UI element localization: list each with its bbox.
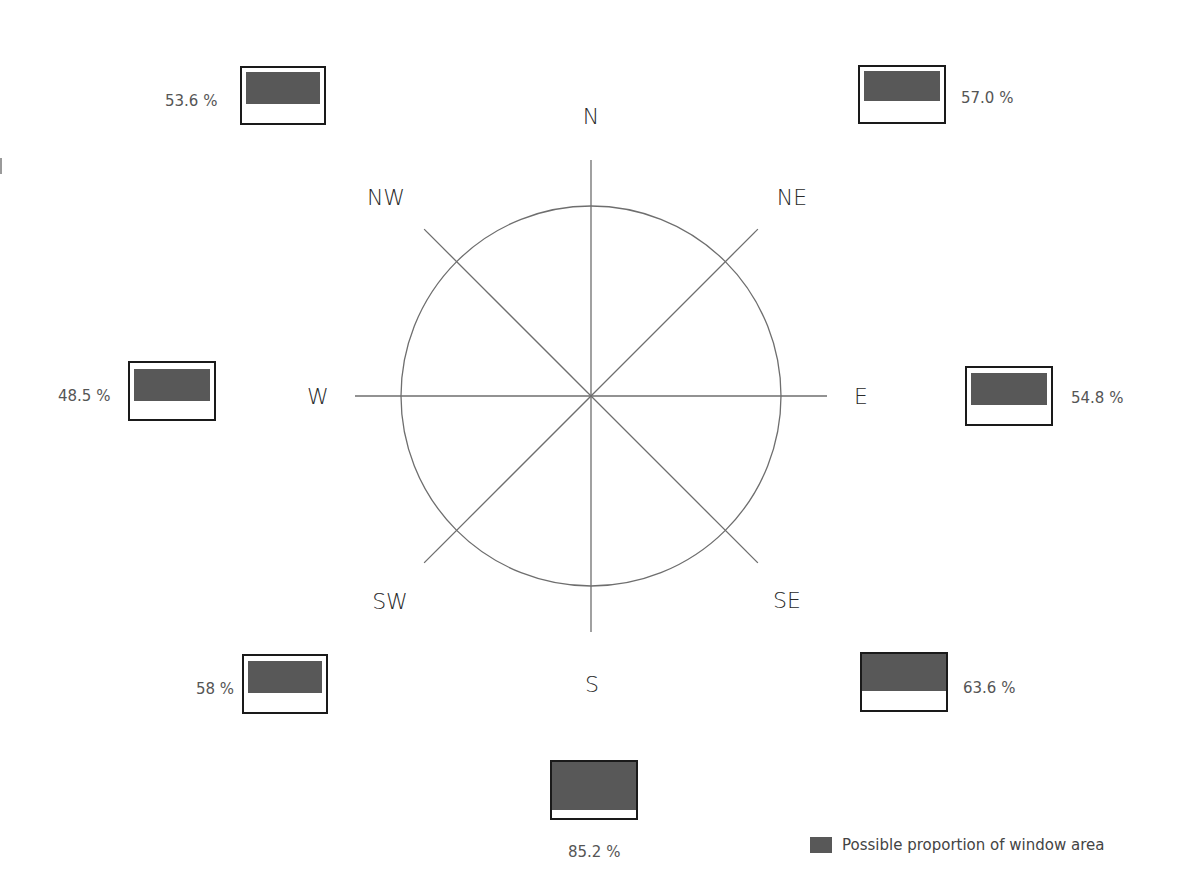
direction-label-n: N — [583, 104, 599, 129]
direction-label-se: SE — [773, 588, 801, 613]
direction-label-e: E — [854, 384, 868, 409]
window-area-fill — [246, 72, 320, 104]
window-area-fill — [862, 654, 946, 691]
window-box-s — [550, 760, 638, 820]
window-area-fill — [248, 661, 322, 693]
legend-label: Possible proportion of window area — [842, 836, 1104, 854]
direction-label-sw: SW — [372, 589, 408, 614]
window-box-w — [128, 361, 216, 421]
window-percentage-nw: 53.6 % — [165, 92, 217, 110]
window-area-fill — [552, 762, 636, 810]
direction-label-nw: NW — [367, 185, 405, 210]
legend-swatch — [810, 837, 832, 853]
window-box-se — [860, 652, 948, 712]
legend: Possible proportion of window area — [810, 836, 1104, 854]
window-box-sw — [242, 654, 328, 714]
window-area-fill — [971, 373, 1047, 405]
direction-label-w: W — [307, 384, 329, 409]
window-percentage-ne: 57.0 % — [961, 89, 1013, 107]
window-box-nw — [240, 66, 326, 125]
direction-label-ne: NE — [777, 185, 807, 210]
window-percentage-e: 54.8 % — [1071, 389, 1123, 407]
window-percentage-w: 48.5 % — [58, 387, 110, 405]
window-percentage-sw: 58 % — [196, 680, 234, 698]
window-percentage-se: 63.6 % — [963, 679, 1015, 697]
window-box-e — [965, 366, 1053, 426]
edge-artifact — [0, 158, 2, 174]
window-percentage-s: 85.2 % — [568, 843, 620, 861]
direction-label-s: S — [585, 672, 599, 697]
window-box-ne — [858, 65, 946, 124]
window-area-fill — [134, 369, 210, 401]
window-area-fill — [864, 71, 940, 101]
